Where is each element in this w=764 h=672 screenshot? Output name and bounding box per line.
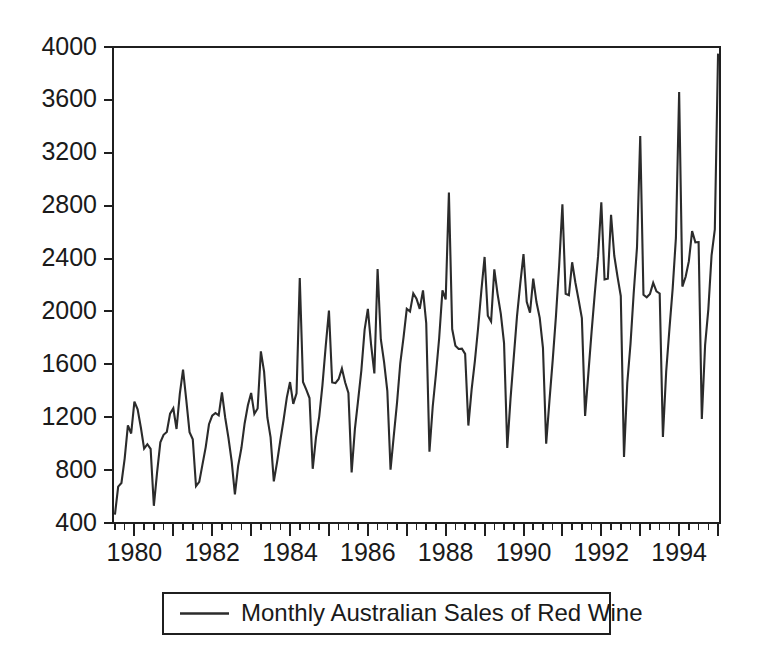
chart-legend: Monthly Australian Sales of Red Wine <box>163 593 643 634</box>
x-tick-label-1994: 1994 <box>651 538 707 566</box>
x-tick-label-1990: 1990 <box>496 538 552 566</box>
x-tick-label-1982: 1982 <box>184 538 240 566</box>
chart-background <box>0 0 764 672</box>
x-tick-label-1992: 1992 <box>574 538 630 566</box>
chart-figure: 40080012001600200024002800320036004000 1… <box>0 0 764 672</box>
x-tick-label-1986: 1986 <box>340 538 396 566</box>
x-tick-label-1984: 1984 <box>262 538 318 566</box>
y-tick-label-400: 400 <box>55 508 97 536</box>
line-chart: 40080012001600200024002800320036004000 1… <box>0 0 764 672</box>
y-tick-label-2800: 2800 <box>41 190 97 218</box>
y-tick-label-3600: 3600 <box>41 84 97 112</box>
legend-entry-label: Monthly Australian Sales of Red Wine <box>241 599 643 626</box>
x-tick-label-1980: 1980 <box>107 538 163 566</box>
y-tick-label-1600: 1600 <box>41 349 97 377</box>
x-tick-label-1988: 1988 <box>418 538 474 566</box>
y-tick-label-3200: 3200 <box>41 137 97 165</box>
y-tick-label-1200: 1200 <box>41 402 97 430</box>
y-tick-label-4000: 4000 <box>41 32 97 60</box>
y-tick-label-2400: 2400 <box>41 243 97 271</box>
y-tick-label-2000: 2000 <box>41 296 97 324</box>
y-tick-label-800: 800 <box>55 455 97 483</box>
